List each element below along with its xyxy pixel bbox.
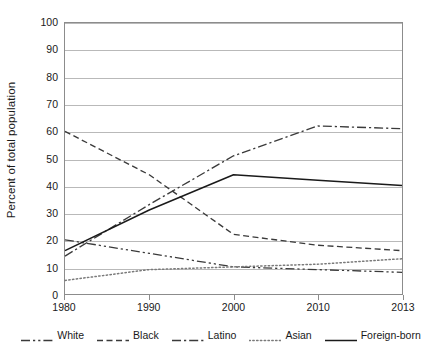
legend-item-white[interactable]: White <box>21 330 84 341</box>
plot-area <box>64 22 403 295</box>
legend-label: White <box>57 330 84 341</box>
series-line-foreign-born <box>65 175 402 251</box>
legend-label: Latino <box>208 330 237 341</box>
legend-swatch-icon <box>21 331 53 340</box>
x-tick-label: 2010 <box>307 302 330 313</box>
series-line-white <box>65 240 402 273</box>
x-tick-label: 2013 <box>391 302 414 313</box>
y-tick-label: 10 <box>30 262 58 273</box>
x-axis-tick-labels: 19801990200020102013 <box>64 295 403 323</box>
legend-item-black[interactable]: Black <box>97 330 159 341</box>
y-tick-label: 30 <box>30 208 58 219</box>
y-tick-label: 60 <box>30 126 58 137</box>
line-chart: Percent of total population 010203040506… <box>0 0 442 353</box>
y-tick-label: 50 <box>30 153 58 164</box>
legend-swatch-icon <box>172 331 204 340</box>
x-tick-mark <box>403 295 404 300</box>
legend-item-foreign-born[interactable]: Foreign-born <box>325 330 421 341</box>
legend-label: Black <box>133 330 159 341</box>
y-tick-label: 40 <box>30 181 58 192</box>
x-tick-mark <box>234 295 235 300</box>
series-line-latino <box>65 126 402 256</box>
x-tick-mark <box>64 295 65 300</box>
x-tick-label: 2000 <box>222 302 245 313</box>
legend-item-latino[interactable]: Latino <box>172 330 237 341</box>
y-tick-label: 0 <box>30 290 58 301</box>
x-tick-mark <box>149 295 150 300</box>
legend-label: Foreign-born <box>361 330 421 341</box>
y-axis-title-text: Percent of total population <box>5 82 17 218</box>
y-tick-label: 70 <box>30 99 58 110</box>
x-tick-mark <box>318 295 319 300</box>
chart-legend: WhiteBlackLatinoAsianForeign-born <box>0 326 442 344</box>
legend-item-asian[interactable]: Asian <box>249 330 311 341</box>
series-line-asian <box>65 259 402 281</box>
legend-label: Asian <box>285 330 311 341</box>
x-tick-label: 1980 <box>52 302 75 313</box>
legend-swatch-icon <box>249 331 281 340</box>
y-tick-label: 100 <box>30 17 58 28</box>
series-layer <box>65 23 402 294</box>
series-line-black <box>65 131 402 250</box>
y-tick-label: 80 <box>30 71 58 82</box>
y-axis-title: Percent of total population <box>0 0 22 300</box>
legend-swatch-icon <box>97 331 129 340</box>
legend-swatch-icon <box>325 331 357 340</box>
y-tick-label: 90 <box>30 44 58 55</box>
y-tick-label: 20 <box>30 235 58 246</box>
x-tick-label: 1990 <box>137 302 160 313</box>
